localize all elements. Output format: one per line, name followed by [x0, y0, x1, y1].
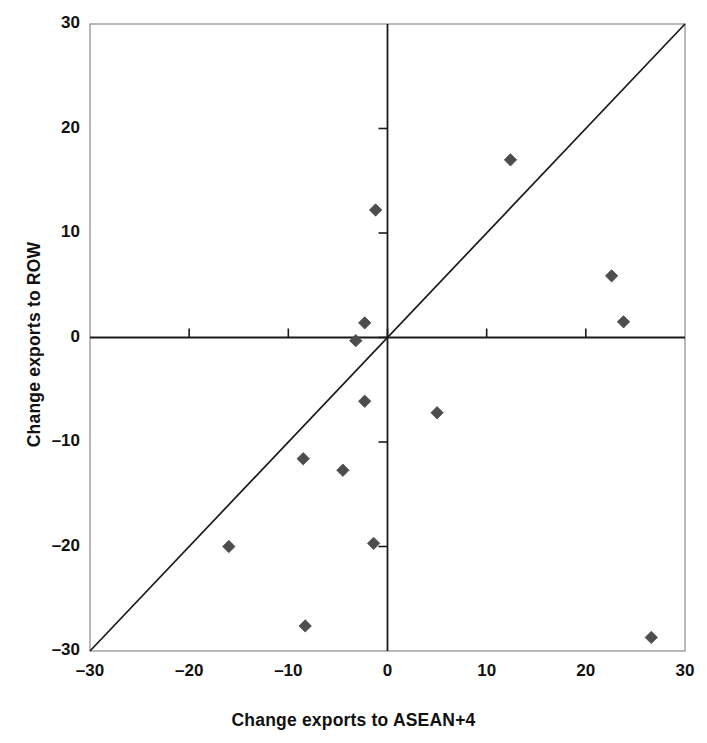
scatter-chart-figure: Change exports to ROW Change exports to … [0, 0, 707, 743]
plot-area [0, 0, 707, 743]
